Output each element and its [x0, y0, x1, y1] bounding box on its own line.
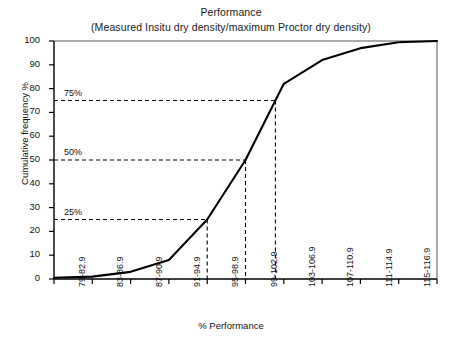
- y-tick-label: 10: [10, 248, 40, 259]
- threshold-label: 25%: [64, 207, 82, 217]
- x-tick-label: 91-94.9: [192, 256, 202, 287]
- y-tick-label: 60: [10, 129, 40, 140]
- x-tick-label: 115-116.9: [422, 248, 432, 287]
- y-tick-label: 50: [10, 153, 40, 164]
- y-tick-label: 20: [10, 224, 40, 235]
- chart-figure: Performance (Measured Insitu dry density…: [0, 0, 462, 349]
- threshold-label: 50%: [64, 147, 82, 157]
- threshold-label: 75%: [64, 88, 82, 98]
- y-tick-label: 80: [10, 82, 40, 93]
- y-tick-label: 40: [10, 177, 40, 188]
- y-tick-label: 70: [10, 105, 40, 116]
- x-tick-label: 83-86.9: [115, 256, 125, 287]
- x-tick-label: 103-106.9: [307, 246, 317, 287]
- y-tick-label: 100: [10, 34, 40, 45]
- y-tick-label: 90: [10, 58, 40, 69]
- y-tick-label: 0: [10, 272, 40, 283]
- x-tick-label: 87-90.9: [154, 256, 164, 287]
- cumulative-frequency-line: [54, 41, 437, 278]
- y-tick-label: 30: [10, 201, 40, 212]
- x-tick-label: 107-110.9: [345, 247, 355, 287]
- x-tick-label: 95-98.9: [230, 256, 240, 287]
- x-axis-title: % Performance: [0, 320, 462, 331]
- x-tick-label: 79-82.9: [77, 256, 87, 287]
- x-tick-label: 111-114.9: [384, 248, 394, 287]
- plot-area: [0, 0, 462, 349]
- x-tick-label: 99-102.9: [269, 251, 279, 287]
